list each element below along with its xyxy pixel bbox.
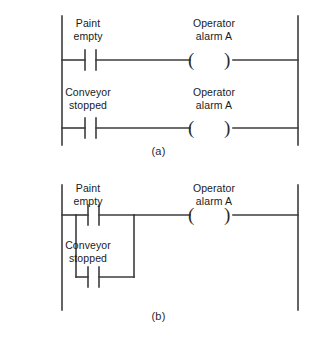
coil-open-paren-rung1: ( <box>188 50 194 69</box>
contact-label-line2: stopped <box>53 99 123 112</box>
contact-label-paint-empty: Paint empty <box>59 17 117 42</box>
coil-open-paren-rung2: ( <box>188 118 194 137</box>
coil-label-line1: Operator <box>178 17 250 30</box>
coil-close-paren: ) <box>224 205 230 224</box>
coil-label-line1: Operator <box>178 182 250 195</box>
coil-close-paren-rung2: ) <box>224 118 230 137</box>
contact-label-paint-empty: Paint empty <box>59 182 117 207</box>
contact-label-conveyor-stopped: Conveyor stopped <box>53 239 123 264</box>
coil-label-line2: alarm A <box>178 30 250 43</box>
coil-label-line1: Operator <box>178 86 250 99</box>
contact-label-line2: stopped <box>53 252 123 265</box>
contact-label-line1: Conveyor <box>53 86 123 99</box>
figure-caption-b: (b) <box>0 310 317 322</box>
contact-label-line2: empty <box>59 195 117 208</box>
figure-caption-a: (a) <box>0 145 317 157</box>
contact-label-line1: Conveyor <box>53 239 123 252</box>
coil-open-paren: ( <box>188 205 194 224</box>
coil-label-operator-alarm-a-rung1: Operator alarm A <box>178 17 250 42</box>
ladder-diagram-b: Paint empty Operator alarm A ( ) Conveyo… <box>0 167 317 337</box>
coil-close-paren-rung1: ) <box>224 50 230 69</box>
contact-label-conveyor-stopped: Conveyor stopped <box>53 86 123 111</box>
contact-label-line1: Paint <box>59 17 117 30</box>
coil-label-operator-alarm-a-rung2: Operator alarm A <box>178 86 250 111</box>
ladder-diagram-a: Paint empty Operator alarm A ( ) Conveyo… <box>0 0 317 170</box>
contact-label-line1: Paint <box>59 182 117 195</box>
coil-label-line2: alarm A <box>178 99 250 112</box>
contact-label-line2: empty <box>59 30 117 43</box>
